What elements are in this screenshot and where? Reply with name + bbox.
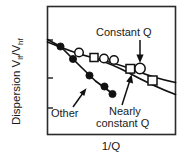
y-axis-label-mid: /V <box>10 45 22 56</box>
data-point-constant-q-1 <box>75 48 84 57</box>
data-point-other-1 <box>57 43 64 50</box>
annotation-nearly-constant-q-label-line1: Nearly <box>109 105 141 117</box>
data-point-nearly-constant-q-3 <box>148 76 157 85</box>
dispersion-vs-inverse-q-chart: Constant Q Nearly constant Q Other Dispe… <box>0 0 181 160</box>
chart-figure: Constant Q Nearly constant Q Other Dispe… <box>0 0 181 160</box>
svg-text:Dispersion Vlf/Vhf: Dispersion Vlf/Vhf <box>10 37 25 125</box>
annotation-nearly-constant-q-label-line2: constant Q <box>96 117 150 129</box>
y-axis-label-sub-hf: hf <box>16 37 25 44</box>
data-point-constant-q-2 <box>100 54 109 63</box>
data-point-nearly-constant-q-1 <box>90 54 98 62</box>
data-point-nearly-constant-q-2 <box>126 65 135 74</box>
data-point-constant-q-4 <box>135 63 145 73</box>
annotation-other-label: Other <box>51 107 79 119</box>
y-axis-label-main: Dispersion V <box>10 59 22 125</box>
y-axis-label: Dispersion Vlf/Vhf <box>10 37 25 125</box>
annotation-nearly-constant-q-arrow <box>122 75 133 106</box>
data-point-other-2 <box>69 55 76 62</box>
data-point-other-5 <box>109 90 116 97</box>
annotation-other-arrow <box>73 88 87 107</box>
data-point-other-3 <box>86 72 93 79</box>
data-point-constant-q-3 <box>110 56 119 65</box>
annotation-constant-q-label: Constant Q <box>96 26 152 38</box>
y-axis-ticks <box>48 40 54 108</box>
annotation-constant-q-arrow <box>136 40 143 63</box>
x-axis-label: 1/Q <box>102 140 121 152</box>
data-point-other-4 <box>101 83 108 90</box>
